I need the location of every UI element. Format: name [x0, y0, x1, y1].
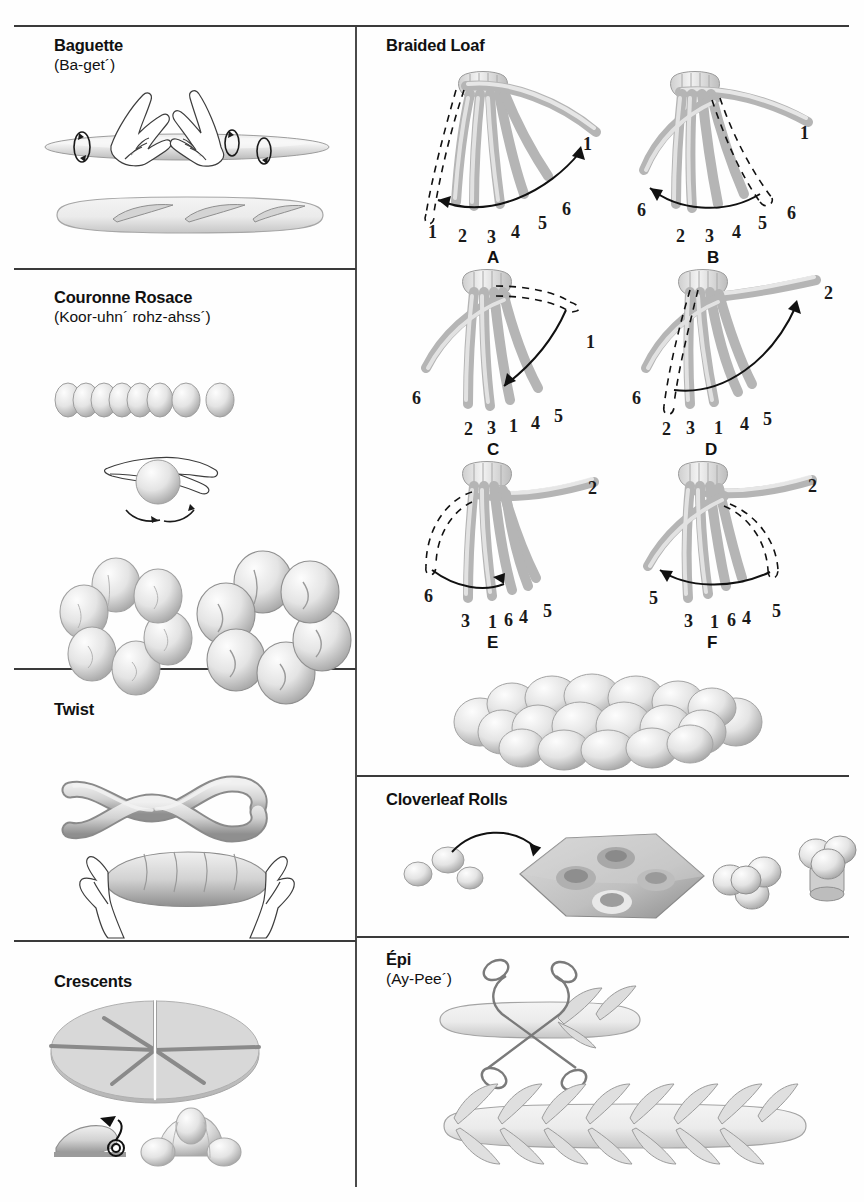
braid-A-bottom-num-6: 6	[562, 199, 571, 220]
panel-cloverleaf-heading: Cloverleaf Rolls	[386, 790, 508, 809]
baguette-subtitle: (Ba-get´)	[54, 56, 123, 74]
braid-E-free-num-2: 2	[588, 478, 597, 499]
right-rule-2	[357, 936, 849, 938]
braid-B-bottom-num-6-dashed: 6	[787, 203, 796, 224]
twist-figure-group	[48, 726, 348, 936]
braid-F-free-num-5-left: 5	[649, 588, 658, 609]
braided-loaf-finished-figure	[440, 672, 780, 772]
braid-E-bottom-num-2: 1	[488, 612, 497, 633]
braid-A-free-num-1: 1	[583, 134, 592, 155]
braid-A-bottom-num-3: 3	[487, 227, 496, 248]
braid-F-bottom-num-3: 6	[727, 610, 736, 631]
panel-baguette-heading: Baguette (Ba-get´)	[54, 36, 123, 74]
braid-E-bottom-num-1: 3	[461, 611, 470, 632]
left-rule-3	[14, 940, 356, 942]
braid-B-bottom-num-2: 2	[676, 226, 685, 247]
braid-D-free-num-6: 6	[632, 388, 641, 409]
braid-step-B-figure	[620, 70, 850, 240]
top-rule	[14, 25, 849, 27]
braid-F-bottom-num-2: 1	[710, 612, 719, 633]
braid-B-bottom-num-3: 3	[705, 226, 714, 247]
couronne-figure-group	[48, 370, 348, 660]
braid-step-label-C: C	[487, 440, 499, 460]
crescents-figure-group	[40, 1000, 340, 1180]
braid-D-bottom-num-4: 4	[740, 414, 749, 435]
braid-A-bottom-num-2: 2	[458, 226, 467, 247]
braid-step-label-B: B	[707, 248, 719, 268]
twist-title: Twist	[54, 700, 94, 719]
panel-crescents-heading: Crescents	[54, 972, 132, 991]
braid-C-free-num-6: 6	[412, 388, 421, 409]
braid-A-bottom-num-5: 5	[538, 213, 547, 234]
panel-braided-heading: Braided Loaf	[386, 36, 484, 55]
braid-step-D-figure	[620, 268, 850, 438]
braid-D-bottom-num-5: 5	[763, 409, 772, 430]
braid-E-bottom-num-5: 5	[543, 601, 552, 622]
couronne-subtitle: (Koor-uhn´ rohz-ahss´)	[54, 308, 211, 326]
braid-step-A-figure	[400, 70, 630, 240]
epi-figure-group	[440, 958, 840, 1188]
right-rule-1	[357, 775, 849, 777]
braid-step-label-A: A	[487, 248, 499, 268]
panel-couronne-heading: Couronne Rosace (Koor-uhn´ rohz-ahss´)	[54, 288, 211, 326]
braid-D-bottom-num-3: 1	[714, 418, 723, 439]
couronne-title: Couronne Rosace	[54, 288, 211, 307]
braid-D-free-num-2: 2	[824, 283, 833, 304]
braid-A-bottom-num-4: 4	[511, 222, 520, 243]
braid-D-bottom-num-1: 2	[662, 419, 671, 440]
braid-E-bottom-num-3: 6	[504, 610, 513, 631]
braid-C-free-num-1: 1	[586, 332, 595, 353]
braid-E-bottom-num-4: 4	[519, 607, 528, 628]
braid-step-label-D: D	[705, 440, 717, 460]
braid-step-C-figure	[400, 268, 630, 438]
braid-D-bottom-num-2: 3	[686, 418, 695, 439]
braid-C-bottom-num-4: 4	[531, 413, 540, 434]
braid-C-bottom-num-3: 1	[509, 416, 518, 437]
braid-B-bottom-num-5: 5	[758, 213, 767, 234]
braid-C-bottom-num-2: 3	[487, 418, 496, 439]
baguette-figure-group	[35, 85, 345, 255]
braid-B-free-num-1: 1	[800, 123, 809, 144]
braided-title: Braided Loaf	[386, 36, 484, 55]
braid-E-free-num-6: 6	[424, 586, 433, 607]
cloverleaf-figure-group	[400, 818, 850, 930]
braid-B-free-num-6: 6	[637, 200, 646, 221]
braid-A-bottom-num-1: 1	[428, 222, 437, 243]
braid-step-label-F: F	[707, 633, 717, 653]
baguette-title: Baguette	[54, 36, 123, 55]
braid-B-bottom-num-4: 4	[732, 222, 741, 243]
column-divider-rule	[355, 27, 357, 1187]
braid-F-bottom-num-1: 3	[684, 611, 693, 632]
left-rule-1	[14, 268, 356, 270]
braid-C-bottom-num-5: 5	[554, 406, 563, 427]
crescents-title: Crescents	[54, 972, 132, 991]
braid-step-label-E: E	[487, 633, 498, 653]
panel-twist-heading: Twist	[54, 700, 94, 719]
braid-C-bottom-num-1: 2	[464, 419, 473, 440]
braid-F-free-num-2: 2	[808, 476, 817, 497]
cloverleaf-title: Cloverleaf Rolls	[386, 790, 508, 809]
diagram-page: Baguette (Ba-get´)	[0, 0, 864, 1202]
braid-F-bottom-num-4: 4	[742, 608, 751, 629]
braid-F-bottom-num-5-dashed: 5	[772, 601, 781, 622]
